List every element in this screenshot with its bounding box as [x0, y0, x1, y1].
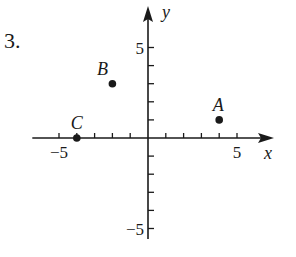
x-axis-label: x: [263, 143, 272, 163]
point-b: B: [97, 59, 116, 88]
x-tick-label: 5: [233, 143, 242, 162]
tick-labels: −555−5xy: [50, 2, 272, 239]
point-marker: [109, 80, 117, 88]
y-tick-label: −5: [126, 220, 144, 239]
point-label: C: [71, 113, 84, 133]
coordinate-plane: −555−5xy ABC: [0, 0, 296, 257]
axes: [32, 6, 274, 239]
y-axis-label: y: [160, 2, 170, 22]
point-marker: [73, 134, 81, 142]
point-label: A: [212, 95, 225, 115]
y-tick-label: 5: [136, 39, 145, 58]
point-marker: [215, 116, 223, 124]
point-label: B: [97, 59, 108, 79]
x-tick-label: −5: [50, 143, 68, 162]
point-a: A: [212, 95, 225, 124]
